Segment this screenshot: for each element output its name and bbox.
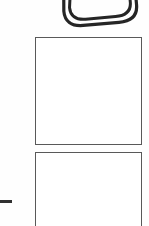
nested-rounded-rectangle-sketch: [53, 0, 144, 38]
sketch-outline-inner: [67, 0, 132, 21]
sketch-svg: [53, 0, 144, 38]
answer-box-2[interactable]: [35, 152, 142, 226]
left-margin-dash: [0, 200, 12, 203]
scanned-page: [0, 0, 149, 226]
answer-box-2-content: [36, 153, 141, 226]
answer-box-1[interactable]: [35, 37, 142, 145]
answer-box-1-content: [36, 38, 141, 144]
